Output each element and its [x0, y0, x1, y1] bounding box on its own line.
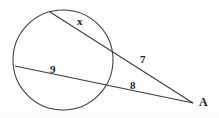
- lower-secant-line: [15, 66, 193, 103]
- label-seven: 7: [140, 54, 146, 65]
- upper-secant-line: [50, 12, 193, 103]
- circle-shape: [13, 10, 113, 110]
- label-x: x: [77, 16, 83, 27]
- label-nine: 9: [50, 64, 56, 75]
- geometry-canvas: [0, 0, 219, 118]
- label-vertex-a: A: [199, 96, 208, 108]
- geometry-figure: x 7 8 9 A: [0, 0, 219, 118]
- bottom-edge-wash: [0, 111, 219, 118]
- label-eight: 8: [130, 80, 136, 91]
